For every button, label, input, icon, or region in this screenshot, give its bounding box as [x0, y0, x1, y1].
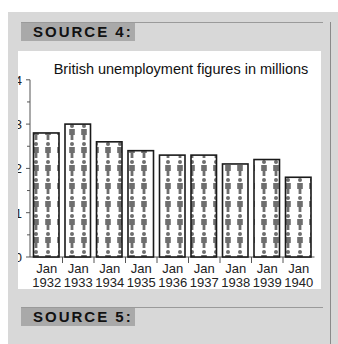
x-tick-label-year: 1936 — [158, 275, 187, 289]
x-tick-label-month: Jan — [68, 261, 89, 276]
x-tick-label-year: 1932 — [32, 275, 61, 289]
x-tick-label-year: 1935 — [127, 275, 156, 289]
unemployment-bar-chart: British unemployment figures in millions… — [18, 51, 321, 289]
bar: Jan 1932: 2.8 — [34, 133, 60, 257]
bar: Jan 1935: 2.4 — [128, 151, 154, 257]
x-tick-label-year: 1934 — [95, 275, 124, 289]
bar: Jan 1934: 2.6 — [97, 142, 123, 257]
x-tick-label-year: 1940 — [284, 275, 313, 289]
x-tick-label-month: Jan — [36, 261, 57, 276]
y-tick-label: 1 — [18, 206, 22, 221]
margin-rule — [330, 22, 331, 344]
chart-title: British unemployment figures in millions — [54, 61, 309, 77]
x-tick-label-month: Jan — [257, 261, 278, 276]
bar: Jan 1940: 1.8 — [286, 177, 312, 257]
bar: Jan 1938: 2.1 — [223, 164, 249, 257]
x-tick-label-year: 1938 — [221, 275, 250, 289]
x-tick-label-year: 1939 — [253, 275, 282, 289]
source-4-heading: SOURCE 4: — [21, 23, 135, 41]
bar: Jan 1937: 2.3 — [191, 155, 217, 257]
bar: Jan 1939: 2.2 — [254, 160, 280, 257]
y-tick-label: 2 — [18, 161, 22, 176]
x-tick-label-month: Jan — [131, 261, 152, 276]
y-tick-label: 3 — [18, 117, 22, 132]
y-tick-label: 0 — [18, 250, 22, 265]
x-tick-label-month: Jan — [99, 261, 120, 276]
x-tick-label-month: Jan — [288, 261, 309, 276]
chart-panel: British unemployment figures in millions… — [18, 51, 321, 289]
source-5-heading: SOURCE 5: — [21, 308, 135, 326]
x-tick-label-month: Jan — [194, 261, 215, 276]
x-tick-label-month: Jan — [162, 261, 183, 276]
x-tick-label-year: 1933 — [64, 275, 93, 289]
y-tick-label: 4 — [18, 73, 22, 88]
bar: Jan 1936: 2.3 — [160, 155, 186, 257]
x-tick-label-month: Jan — [225, 261, 246, 276]
bar: Jan 1933: 3 — [65, 124, 91, 257]
x-tick-label-year: 1937 — [190, 275, 219, 289]
x-axis-labels: Jan1932Jan1933Jan1934Jan1935Jan1936Jan19… — [32, 257, 313, 289]
bars: Jan 1932: 2.8Jan 1933: 3Jan 1934: 2.6Jan… — [34, 124, 312, 257]
